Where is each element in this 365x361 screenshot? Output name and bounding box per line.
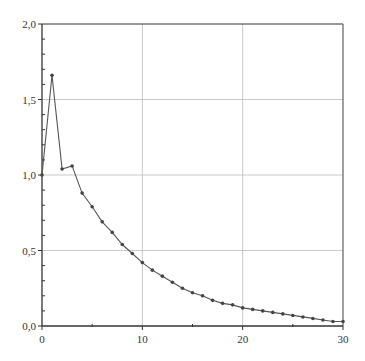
data-point-marker [191,291,195,295]
data-point-marker [80,191,84,195]
x-tick-label: 0 [39,333,45,345]
data-point-marker [231,303,235,307]
data-point-marker [50,74,54,78]
data-point-marker [321,318,325,322]
data-series [40,74,345,324]
data-point-marker [301,315,305,319]
grid-lines [42,24,343,326]
series-line [42,75,343,321]
data-point-marker [100,220,104,224]
x-tick-label: 30 [338,333,350,345]
data-point-marker [131,252,135,256]
axes [38,24,343,330]
data-point-marker [341,320,345,324]
tick-labels: 0,00,51,01,52,00102030 [22,18,349,345]
y-tick-label: 1,0 [22,169,36,181]
y-tick-label: 2,0 [22,18,36,30]
data-point-marker [271,311,275,315]
data-point-marker [211,299,215,303]
data-point-marker [40,173,44,177]
data-point-marker [90,205,94,209]
data-point-marker [161,274,165,278]
x-tick-label: 10 [137,333,149,345]
data-point-marker [281,312,285,316]
data-point-marker [221,302,225,306]
data-point-marker [311,317,315,321]
data-point-marker [331,320,335,324]
data-point-marker [171,280,175,284]
line-chart: 0,00,51,01,52,00102030 [0,0,365,361]
data-point-marker [151,268,155,272]
y-tick-label: 1,5 [22,94,36,106]
data-point-marker [241,306,245,310]
data-point-marker [261,309,265,313]
data-point-marker [60,167,64,171]
data-point-marker [181,286,185,290]
x-tick-label: 20 [237,333,249,345]
data-point-marker [291,314,295,318]
y-tick-label: 0,5 [22,245,36,257]
data-point-marker [70,164,74,168]
data-point-marker [120,243,124,247]
data-point-marker [201,294,205,298]
data-point-marker [251,308,255,312]
y-tick-label: 0,0 [22,320,36,332]
data-point-marker [141,261,145,265]
data-point-marker [110,231,114,235]
